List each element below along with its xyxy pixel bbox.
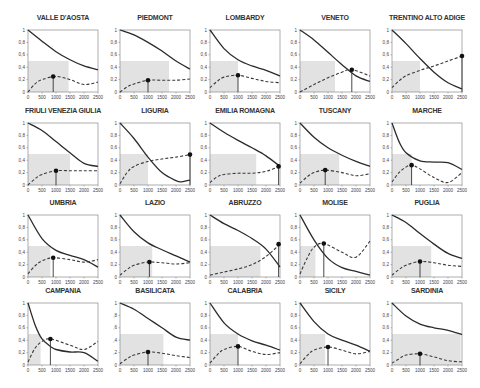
x-tick-label: 2500 xyxy=(93,368,104,373)
x-tick-label: 1500 xyxy=(65,280,76,285)
x-tick-label: 2000 xyxy=(171,280,182,285)
y-tick-label: 0,4 xyxy=(383,158,390,163)
y-tick-label: 0 xyxy=(204,363,207,368)
chart-title: SICILY xyxy=(325,287,346,294)
x-tick-label: 1500 xyxy=(247,188,258,193)
y-tick-label: 0,2 xyxy=(19,262,26,267)
x-tick-label: 0 xyxy=(119,188,122,193)
shaded-region xyxy=(392,334,461,365)
x-tick-label: 500 xyxy=(402,188,410,193)
y-tick-label: 0,4 xyxy=(19,65,26,70)
x-tick-label: 1000 xyxy=(51,368,62,373)
y-tick-label: 0,4 xyxy=(201,158,208,163)
optimum-marker xyxy=(236,73,241,78)
y-tick-label: 0,4 xyxy=(291,338,298,343)
chart-title: MARCHE xyxy=(412,107,442,114)
x-tick-label: 2500 xyxy=(457,280,468,285)
chart-panel: BASILICATA0,2,4,6,8105001000150020002500 xyxy=(113,287,195,373)
x-tick-label: 0 xyxy=(391,280,394,285)
y-tick-label: 0,6 xyxy=(201,237,208,242)
chart-title: LOMBARDY xyxy=(226,14,265,21)
x-tick-label: 1000 xyxy=(143,188,154,193)
y-tick-label: 0,6 xyxy=(383,145,390,150)
y-tick-label: 0,4 xyxy=(111,65,118,70)
y-tick-label: 0,2 xyxy=(19,170,26,175)
x-tick-label: 2000 xyxy=(443,95,454,100)
x-tick-label: 2000 xyxy=(351,95,362,100)
y-tick-label: 1 xyxy=(114,213,117,218)
x-tick-label: 2000 xyxy=(261,188,272,193)
x-tick-label: 0 xyxy=(391,188,394,193)
x-tick-label: 2000 xyxy=(351,368,362,373)
x-tick-label: 0 xyxy=(119,95,122,100)
y-tick-label: 0,6 xyxy=(111,145,118,150)
x-tick-label: 1500 xyxy=(337,280,348,285)
shaded-region xyxy=(300,246,315,277)
chart-title: EMILIA ROMAGNA xyxy=(215,107,275,114)
y-tick-label: 0,4 xyxy=(19,158,26,163)
x-tick-label: 2500 xyxy=(275,188,286,193)
y-tick-label: 0,2 xyxy=(291,350,298,355)
x-tick-label: 0 xyxy=(299,188,302,193)
y-tick-label: 0,6 xyxy=(201,325,208,330)
chart-panel: UMBRIA00,20,40,60,8105001000150020002500 xyxy=(19,199,104,285)
x-tick-label: 1000 xyxy=(323,95,334,100)
shaded-region xyxy=(28,61,69,92)
chart-panel: PIEDMONT00,20,40,60,81050010001500200025… xyxy=(111,14,196,100)
chart-title: SARDINIA xyxy=(411,287,443,294)
y-tick-label: 0,8 xyxy=(383,133,390,138)
x-tick-label: 500 xyxy=(38,95,46,100)
y-tick-label: 0,8 xyxy=(383,313,390,318)
x-tick-label: 1500 xyxy=(247,280,258,285)
y-tick-label: 0 xyxy=(386,363,389,368)
x-tick-label: 500 xyxy=(310,95,318,100)
y-tick-label: 1 xyxy=(386,121,389,126)
x-tick-label: 1500 xyxy=(157,95,168,100)
x-tick-label: 0 xyxy=(27,95,30,100)
chart-panel: FRIULI VENEZIA GIULIA00,20,40,60,8105001… xyxy=(19,107,104,193)
y-tick-label: 0,2 xyxy=(19,350,26,355)
y-tick-label: 0 xyxy=(114,90,117,95)
y-tick-label: 0,2 xyxy=(291,262,298,267)
y-tick-label: 1 xyxy=(204,28,207,33)
x-tick-label: 2000 xyxy=(79,280,90,285)
x-tick-label: 500 xyxy=(220,280,228,285)
optimum-marker xyxy=(146,350,151,355)
chart-panel: MOLISE00,20,40,60,8105001000150020002500 xyxy=(291,199,376,285)
x-tick-label: 2500 xyxy=(275,95,286,100)
y-tick-label: 0,6 xyxy=(291,237,298,242)
chart-title: CAMPANIA xyxy=(45,287,81,294)
y-tick-label: 0,6 xyxy=(383,52,390,57)
y-tick-label: 1 xyxy=(22,121,25,126)
chart-title: PUGLIA xyxy=(414,199,439,206)
x-tick-label: 2500 xyxy=(365,368,376,373)
x-tick-label: 1000 xyxy=(143,368,154,373)
y-tick-label: 1 xyxy=(204,301,207,306)
x-tick-label: 500 xyxy=(130,368,138,373)
y-tick-label: 0 xyxy=(204,90,207,95)
chart-title: ABRUZZO xyxy=(229,199,263,206)
x-tick-label: 1500 xyxy=(429,95,440,100)
y-tick-label: 0,4 xyxy=(111,250,118,255)
y-tick-label: 0,4 xyxy=(19,338,26,343)
y-tick-label: 0 xyxy=(386,275,389,280)
y-tick-label: 0,2 xyxy=(383,262,390,267)
y-tick-label: 0,2 xyxy=(111,77,118,82)
chart-title: VALLE D'AOSTA xyxy=(37,14,90,21)
y-tick-label: 1 xyxy=(386,28,389,33)
optimum-marker xyxy=(276,164,281,169)
y-tick-label: 0,4 xyxy=(291,158,298,163)
y-tick-label: 1 xyxy=(114,121,117,126)
chart-title: CALABRIA xyxy=(228,287,263,294)
chart-panel: MARCHE00,20,40,60,8105001000150020002500 xyxy=(383,107,468,193)
y-tick-label: 0,6 xyxy=(383,325,390,330)
optimum-marker xyxy=(146,78,151,83)
x-tick-label: 1000 xyxy=(415,368,426,373)
y-tick-label: 0 xyxy=(204,183,207,188)
x-tick-label: 500 xyxy=(38,280,46,285)
x-tick-label: 500 xyxy=(402,95,410,100)
y-tick-label: 0,4 xyxy=(111,158,118,163)
x-tick-label: 2000 xyxy=(351,280,362,285)
x-tick-label: 1500 xyxy=(157,368,168,373)
y-tick-label: 0,6 xyxy=(19,145,26,150)
